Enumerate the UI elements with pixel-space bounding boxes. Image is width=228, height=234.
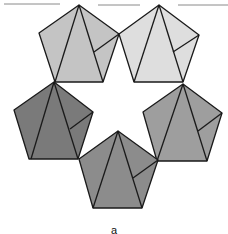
- pentagon-middle-right: [143, 84, 222, 161]
- pentagon-top-left: [39, 5, 119, 82]
- pentagons-group: [14, 5, 222, 208]
- pentagon-middle-left: [14, 82, 93, 159]
- pentagon-ring-diagram: [0, 0, 228, 234]
- pentagon-bottom: [79, 131, 158, 208]
- pentagon-outline: [39, 5, 119, 82]
- figure-label: a: [0, 224, 228, 234]
- pentagon-outline: [79, 131, 158, 208]
- pentagon-top-right: [119, 5, 199, 82]
- top-rule-lines: [4, 4, 228, 5]
